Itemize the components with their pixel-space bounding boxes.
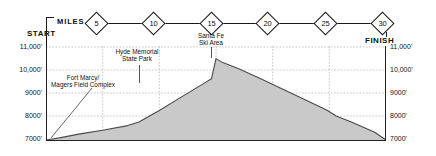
- santa-fe-ski-area-line1: Santa Fe: [180, 32, 242, 39]
- mile-line-segment: [333, 23, 374, 24]
- y-tick-right-10000: 10,000': [390, 66, 434, 73]
- mile-line-segment: [275, 23, 317, 24]
- y-tick-left-7000: 7000': [0, 135, 42, 142]
- mile-marker-10[interactable]: 10: [141, 11, 165, 35]
- start-bracket-vertical: [46, 17, 47, 24]
- mile-marker-10-label: 10: [146, 16, 161, 31]
- mile-marker-15-label: 15: [204, 16, 219, 31]
- mile-marker-25[interactable]: 25: [313, 11, 337, 35]
- mile-line-segment: [104, 23, 145, 24]
- hyde-memorial-line1: Hyde Memorial: [100, 48, 174, 55]
- fort-marcy-line1: Fort Marcy/: [34, 74, 132, 81]
- mile-marker-20-label: 20: [260, 16, 275, 31]
- start-label: START: [27, 29, 56, 38]
- y-tick-left-9000: 9000': [0, 89, 42, 96]
- hyde-memorial-leader: [139, 65, 140, 83]
- fort-marcy-leader: [46, 88, 102, 140]
- mile-marker-30[interactable]: 30: [370, 11, 394, 35]
- mile-marker-30-label: 30: [375, 16, 390, 31]
- mile-marker-5-label: 5: [89, 16, 104, 31]
- miles-unit-label: MILES: [57, 17, 84, 26]
- y-tick-right-9000: 9000': [390, 89, 434, 96]
- y-tick-left-10000: 10,000': [0, 66, 42, 73]
- hyde-memorial-line2: State Park: [100, 55, 174, 62]
- y-tick-right-8000: 8000': [390, 112, 434, 119]
- mile-marker-5[interactable]: 5: [84, 11, 108, 35]
- hyde-memorial-state-park-label: Hyde Memorial State Park: [100, 48, 174, 63]
- y-tick-right-11000: 11,000': [390, 43, 434, 50]
- mile-marker-25-label: 25: [318, 16, 333, 31]
- mile-line-segment: [161, 23, 203, 24]
- y-tick-right-7000: 7000': [390, 135, 434, 142]
- y-tick-left-8000: 8000': [0, 112, 42, 119]
- mile-marker-20[interactable]: 20: [255, 11, 279, 35]
- start-bracket-horizontal: [46, 17, 54, 18]
- santa-fe-ski-area-caption: Santa Fe Ski Area: [180, 32, 242, 46]
- santa-fe-ski-area-leader: [211, 47, 212, 58]
- elevation-profile-figure: START MILES 5 10 15 20 25 30 FINISH: [0, 0, 436, 156]
- y-tick-left-11000: 11,000': [0, 43, 42, 50]
- fort-marcy-label: Fort Marcy/ Magers Field Complex: [34, 74, 132, 89]
- mile-line-segment: [219, 23, 259, 24]
